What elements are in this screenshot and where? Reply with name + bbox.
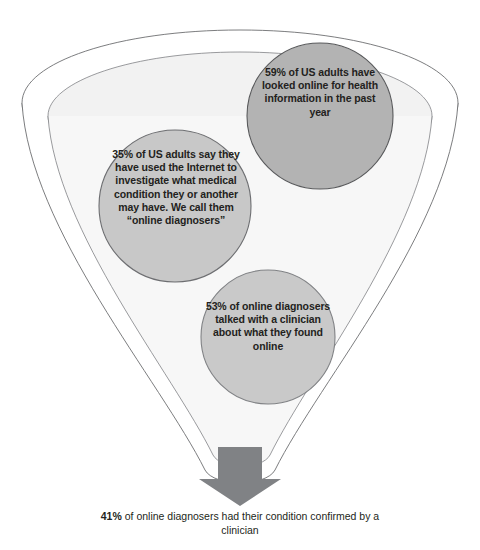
funnel-graphic <box>0 0 480 550</box>
bubble-53-percent[interactable] <box>201 270 335 404</box>
footer-caption: 41% of online diagnosers had their condi… <box>100 509 380 537</box>
footer-stat: 41% <box>101 510 122 522</box>
infographic-canvas: 59% of US adults have looked online for … <box>0 0 480 550</box>
bubble-35-percent[interactable] <box>99 130 251 282</box>
footer-rest: of online diagnosers had their condition… <box>122 510 379 536</box>
bubble-59-percent[interactable] <box>247 43 393 189</box>
funnel-outline <box>22 30 458 483</box>
